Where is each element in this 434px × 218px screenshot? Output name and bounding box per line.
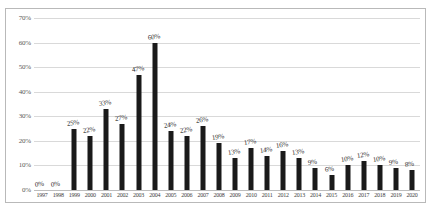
bar-value-label: 25% — [67, 118, 80, 128]
bar-slot: 13% — [227, 18, 243, 190]
bar — [168, 131, 173, 190]
x-tick-label: 2000 — [85, 192, 96, 198]
bar-value-label: 22% — [179, 125, 192, 135]
y-tick-label: 70% — [19, 14, 31, 22]
bar-slot: 25% — [66, 18, 82, 190]
bar-value-label: 9% — [388, 158, 398, 167]
bar — [200, 126, 205, 190]
bar-slot: 33% — [98, 18, 114, 190]
y-tick-label: 40% — [19, 88, 31, 96]
bar-slot: 10% — [372, 18, 388, 190]
x-tick-label: 2020 — [406, 192, 417, 198]
x-tick-label: 2003 — [133, 192, 144, 198]
bar-slot: 13% — [291, 18, 307, 190]
x-tick-label: 2002 — [117, 192, 128, 198]
bar-value-label: 13% — [292, 147, 305, 157]
bar-slot: 19% — [211, 18, 227, 190]
gridline-0pct — [34, 190, 420, 191]
x-tick-label: 2001 — [101, 192, 112, 198]
bar — [393, 168, 398, 190]
bar — [265, 156, 270, 190]
bar-slot: 27% — [114, 18, 130, 190]
bar-value-label: 17% — [243, 137, 256, 147]
bar-slot: 26% — [195, 18, 211, 190]
bar — [136, 75, 141, 190]
bar-value-label: 10% — [340, 155, 353, 165]
x-tick-label: 2004 — [149, 192, 160, 198]
bar — [72, 129, 77, 190]
bar-value-label: 26% — [195, 115, 208, 125]
x-tick-label: 2005 — [165, 192, 176, 198]
x-tick-label: 2017 — [358, 192, 369, 198]
bar-slot: 47% — [131, 18, 147, 190]
x-tick-label: 2015 — [326, 192, 337, 198]
x-tick-label: 2019 — [390, 192, 401, 198]
bar — [184, 136, 189, 190]
x-tick-label: 2013 — [294, 192, 305, 198]
x-tick-label: 2011 — [262, 192, 273, 198]
x-tick-label: 2009 — [230, 192, 241, 198]
bar — [361, 161, 366, 190]
x-tick-label: 2016 — [342, 192, 353, 198]
bar-slot: 24% — [163, 18, 179, 190]
bar — [233, 158, 238, 190]
bar-slot: 8% — [404, 18, 420, 190]
bar — [249, 148, 254, 190]
bar-value-label: 60% — [147, 32, 160, 42]
x-tick-label: 1997 — [37, 192, 48, 198]
bar — [409, 170, 414, 190]
bar — [120, 124, 125, 190]
bar-slot: 10% — [340, 18, 356, 190]
x-tick-label: 2012 — [278, 192, 289, 198]
x-tick-label: 1999 — [69, 192, 80, 198]
y-tick-label: 60% — [19, 39, 31, 47]
bar-value-label: 6% — [324, 165, 334, 174]
bar-slot: 0% — [50, 18, 66, 190]
bar-slot: 9% — [307, 18, 323, 190]
y-tick-label: 0% — [22, 186, 31, 194]
bar-slot: 17% — [243, 18, 259, 190]
bar-value-label: 0% — [34, 180, 44, 189]
x-tick-label: 2014 — [310, 192, 321, 198]
bar-slot: 9% — [388, 18, 404, 190]
x-tick-label: 2008 — [213, 192, 224, 198]
bar-value-label: 22% — [83, 125, 96, 135]
y-tick-label: 20% — [19, 137, 31, 145]
bar-slot: 22% — [82, 18, 98, 190]
bar — [377, 165, 382, 190]
chart-frame: 0%10%20%30%40%50%60%70% 0%0%25%22%33%27%… — [5, 8, 426, 203]
y-tick-label: 10% — [19, 161, 31, 169]
y-tick-label: 30% — [19, 112, 31, 120]
bar — [152, 43, 157, 190]
bar-value-label: 12% — [356, 150, 369, 160]
bar-value-label: 47% — [131, 64, 144, 74]
bar-value-label: 0% — [50, 180, 60, 189]
y-tick-label: 50% — [19, 63, 31, 71]
bar-value-label: 10% — [372, 155, 385, 165]
bar-slot: 22% — [179, 18, 195, 190]
x-tick-label: 2018 — [374, 192, 385, 198]
bar — [313, 168, 318, 190]
x-axis-tick-labels: 1997199819992000200120022003200420052006… — [34, 192, 420, 203]
bar-value-label: 24% — [163, 120, 176, 130]
bar-slot: 0% — [34, 18, 50, 190]
bar-value-label: 19% — [211, 132, 224, 142]
bar-slot: 14% — [259, 18, 275, 190]
x-tick-label: 2010 — [246, 192, 257, 198]
bar-value-label: 14% — [260, 145, 273, 155]
bar-slot: 60% — [147, 18, 163, 190]
bar-value-label: 8% — [404, 160, 414, 169]
bar-value-label: 33% — [99, 98, 112, 108]
bar-slot: 6% — [324, 18, 340, 190]
bar-value-label: 27% — [115, 113, 128, 123]
bar — [329, 175, 334, 190]
bar — [281, 151, 286, 190]
bar — [88, 136, 93, 190]
bar — [345, 165, 350, 190]
bar-series: 0%0%25%22%33%27%47%60%24%22%26%19%13%17%… — [34, 18, 420, 190]
bar-value-label: 16% — [276, 140, 289, 150]
bar-value-label: 9% — [308, 158, 318, 167]
bar-slot: 16% — [275, 18, 291, 190]
bar-slot: 12% — [356, 18, 372, 190]
bar — [104, 109, 109, 190]
